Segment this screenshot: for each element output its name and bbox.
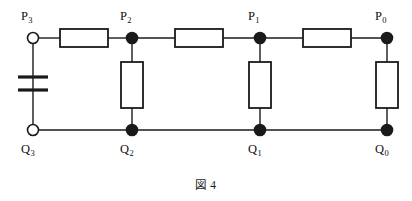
series-resistor: [175, 29, 223, 47]
p-node-junction-dot: [382, 33, 393, 44]
node-label-p3: P3: [21, 10, 32, 23]
resistor-layer: [60, 29, 398, 108]
node-label-p0: P0: [375, 10, 386, 23]
node-label-q2: Q2: [120, 143, 133, 156]
figure-container: P3P2P1P0Q3Q2Q1Q0 図 4: [0, 0, 412, 201]
p-node-junction-dot: [255, 33, 266, 44]
node-label-subscript: 2: [127, 15, 131, 25]
series-resistor: [303, 29, 351, 47]
node-label-subscript: 1: [255, 15, 259, 25]
node-label-q0: Q0: [375, 143, 388, 156]
p-node-open-terminal: [28, 33, 39, 44]
q-node-junction-dot: [255, 125, 266, 136]
node-label-subscript: 0: [384, 148, 388, 158]
node-marker-layer: [28, 33, 393, 136]
node-label-base: P: [248, 9, 255, 23]
node-label-p1: P1: [248, 10, 259, 23]
node-label-base: Q: [375, 142, 384, 156]
node-label-base: Q: [120, 142, 129, 156]
node-label-base: P: [375, 9, 382, 23]
battery-source: [18, 44, 48, 124]
shunt-resistor: [121, 62, 143, 108]
node-label-base: P: [120, 9, 127, 23]
circuit-diagram: [0, 0, 412, 201]
wire-layer: [33, 38, 387, 130]
node-label-subscript: 2: [129, 148, 133, 158]
series-resistor: [60, 29, 108, 47]
node-label-base: P: [21, 9, 28, 23]
node-label-subscript: 1: [257, 148, 261, 158]
p-node-junction-dot: [127, 33, 138, 44]
node-label-q3: Q3: [21, 143, 34, 156]
q-node-junction-dot: [382, 125, 393, 136]
node-label-q1: Q1: [248, 143, 261, 156]
q-node-junction-dot: [127, 125, 138, 136]
shunt-resistor: [249, 62, 271, 108]
node-label-base: Q: [21, 142, 30, 156]
node-label-subscript: 0: [382, 15, 386, 25]
q-node-open-terminal: [28, 125, 39, 136]
node-label-p2: P2: [120, 10, 131, 23]
node-label-subscript: 3: [28, 15, 32, 25]
figure-caption: 図 4: [0, 176, 412, 192]
shunt-resistor: [376, 62, 398, 108]
node-label-base: Q: [248, 142, 257, 156]
node-label-subscript: 3: [30, 148, 34, 158]
